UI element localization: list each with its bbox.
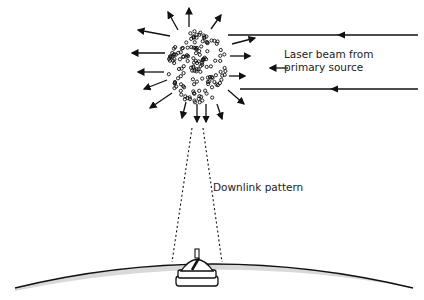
laser-beam-label-line1: Laser beam from (284, 48, 373, 61)
laser-beam-label: Laser beam from primary source (284, 48, 373, 74)
laser-beam-label-line2: primary source (284, 61, 373, 74)
downlink-cone (172, 128, 222, 262)
particle-cloud (167, 30, 227, 104)
downlink-label: Downlink pattern (213, 181, 303, 194)
diagram-canvas (0, 0, 424, 300)
